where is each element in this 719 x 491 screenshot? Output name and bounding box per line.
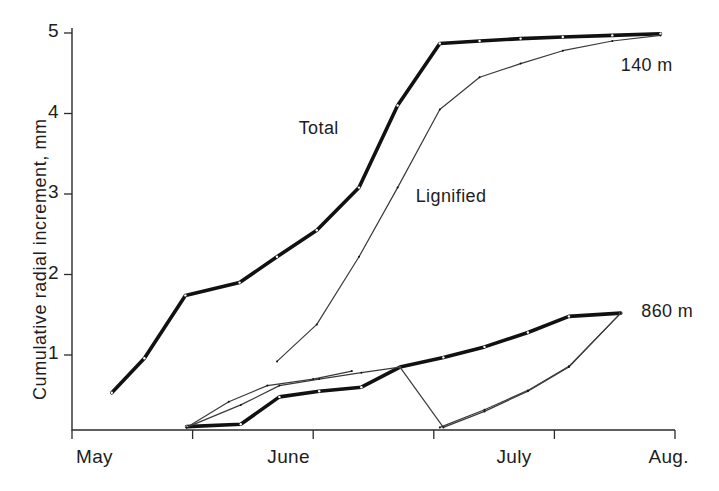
data-point-marker bbox=[527, 389, 529, 391]
data-point-marker bbox=[143, 357, 145, 359]
data-point-marker bbox=[266, 385, 268, 387]
series-line-4 bbox=[187, 371, 352, 427]
chart-plot-area bbox=[0, 0, 719, 491]
data-point-marker bbox=[240, 404, 242, 406]
series-annotation-total: Total bbox=[299, 118, 339, 139]
data-point-marker bbox=[238, 281, 240, 283]
data-point-marker bbox=[399, 366, 401, 368]
data-point-marker bbox=[276, 256, 278, 258]
data-point-marker bbox=[186, 426, 188, 428]
data-point-marker bbox=[396, 104, 398, 106]
data-point-marker bbox=[620, 312, 622, 314]
series-line-2 bbox=[187, 313, 621, 427]
data-point-marker bbox=[358, 186, 360, 188]
data-point-marker bbox=[184, 294, 186, 296]
data-point-marker bbox=[562, 36, 564, 38]
data-point-marker bbox=[483, 346, 485, 348]
data-point-marker bbox=[318, 390, 320, 392]
x-tick-label-may: May bbox=[76, 446, 113, 468]
series-annotation-lignified: Lignified bbox=[416, 186, 487, 207]
data-point-marker bbox=[484, 409, 486, 411]
axis-lines bbox=[72, 28, 675, 430]
y-tick-label-2: 2 bbox=[48, 262, 59, 284]
data-point-marker bbox=[442, 426, 444, 428]
data-point-marker bbox=[439, 109, 441, 111]
x-tick-label-aug: Aug. bbox=[648, 446, 688, 468]
data-point-marker bbox=[316, 229, 318, 231]
y-tick-label-1: 1 bbox=[48, 342, 59, 364]
data-point-marker bbox=[611, 40, 613, 42]
data-point-marker bbox=[527, 331, 529, 333]
y-tick-label-4: 4 bbox=[48, 101, 59, 123]
x-tick-label-july: July bbox=[497, 446, 532, 468]
data-point-marker bbox=[351, 370, 353, 372]
data-point-marker bbox=[318, 378, 320, 380]
data-point-marker bbox=[568, 315, 570, 317]
axis-ticks bbox=[64, 33, 675, 439]
series-line-0 bbox=[112, 34, 661, 393]
series-annotation-site-860m: 860 m bbox=[641, 301, 693, 322]
data-point-marker bbox=[520, 63, 522, 65]
data-point-marker bbox=[660, 34, 662, 36]
data-series-group bbox=[112, 34, 661, 428]
data-point-marker bbox=[312, 378, 314, 380]
data-point-marker bbox=[228, 401, 230, 403]
data-point-marker bbox=[316, 323, 318, 325]
data-point-marker bbox=[360, 386, 362, 388]
data-point-marker bbox=[439, 42, 441, 44]
data-point-marker bbox=[519, 37, 521, 39]
data-point-marker bbox=[562, 50, 564, 52]
data-point-marker bbox=[478, 40, 480, 42]
chart-figure: Cumulative radial increment, mm 5 4 3 2 … bbox=[0, 0, 719, 491]
data-point-marker bbox=[278, 396, 280, 398]
data-point-marker bbox=[442, 356, 444, 358]
data-point-marker bbox=[568, 365, 570, 367]
data-point-marker bbox=[111, 392, 113, 394]
data-point-marker bbox=[278, 385, 280, 387]
data-point-marker bbox=[479, 76, 481, 78]
data-point-marker bbox=[358, 256, 360, 258]
series-line-3 bbox=[187, 313, 621, 427]
y-tick-label-3: 3 bbox=[48, 181, 59, 203]
data-point-marker bbox=[611, 34, 613, 36]
series-annotation-site-140m: 140 m bbox=[621, 55, 673, 76]
data-point-marker bbox=[439, 426, 441, 428]
data-point-marker bbox=[397, 187, 399, 189]
data-point-marker bbox=[360, 372, 362, 374]
axes bbox=[64, 28, 675, 439]
y-tick-label-5: 5 bbox=[48, 20, 59, 42]
x-tick-label-june: June bbox=[267, 446, 309, 468]
data-point-marker bbox=[240, 423, 242, 425]
data-point-marker bbox=[276, 360, 278, 362]
